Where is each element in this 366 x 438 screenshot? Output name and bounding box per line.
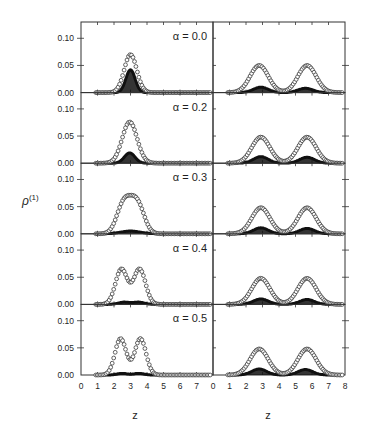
y-tick-label: 0.05 — [57, 202, 74, 212]
y-tick-label: 0.00 — [57, 88, 74, 98]
x-tick-label: 1 — [227, 381, 232, 391]
y-tick-label: 0.10 — [57, 174, 74, 184]
x-tick-label: 3 — [128, 381, 133, 391]
x-tick-label: 7 — [326, 381, 331, 391]
open-circle-series — [94, 267, 212, 306]
x-tick-label: 0 — [211, 381, 216, 391]
alpha-label: α = 0.4 — [173, 242, 207, 254]
open-circle-series — [226, 347, 344, 377]
y-tick-label: 0.10 — [57, 316, 74, 326]
y-tick-label: 0.10 — [57, 245, 74, 255]
y-tick-label: 0.05 — [57, 272, 74, 282]
panel-right-1 — [213, 93, 349, 166]
alpha-label: α = 0.0 — [173, 30, 207, 42]
figure: 0.000.050.10α = 0.00.000.050.10α = 0.20.… — [0, 0, 366, 438]
x-tick-label: 0 — [79, 381, 84, 391]
open-circle-series — [94, 193, 212, 235]
y-axis-label: ρ(1) — [21, 193, 39, 208]
y-tick-label: 0.00 — [57, 229, 74, 239]
y-tick-label: 0.05 — [57, 131, 74, 141]
x-axis-label-right: z — [265, 409, 271, 421]
alpha-label: α = 0.5 — [173, 312, 207, 324]
x-tick-label: 5 — [161, 381, 166, 391]
y-tick-label: 0.00 — [57, 299, 74, 309]
x-tick-label: 5 — [293, 381, 298, 391]
y-tick-label: 0.00 — [57, 370, 74, 380]
open-circle-series — [226, 206, 344, 236]
open-circle-series — [226, 135, 344, 165]
x-tick-label: 2 — [244, 381, 249, 391]
open-circle-series — [94, 53, 212, 95]
y-tick-label: 0.10 — [57, 33, 74, 43]
x-tick-label: 1 — [95, 381, 100, 391]
filled-series — [96, 70, 210, 93]
y-tick-label: 0.05 — [57, 60, 74, 70]
x-axis-label-left: z — [132, 409, 138, 421]
open-circle-series — [94, 337, 212, 377]
open-circle-series — [226, 276, 344, 306]
panel-right-0 — [213, 22, 349, 95]
chart-grid: 0.000.050.10α = 0.00.000.050.10α = 0.20.… — [0, 0, 366, 438]
y-tick-label: 0.00 — [57, 158, 74, 168]
open-circle-series — [94, 120, 212, 165]
open-circle-series — [226, 64, 344, 95]
x-tick-label: 3 — [260, 381, 265, 391]
x-tick-label: 8 — [343, 381, 348, 391]
x-tick-label: 2 — [112, 381, 117, 391]
x-tick-labels: 01234567012345678 — [79, 381, 348, 391]
y-tick-label: 0.10 — [57, 104, 74, 114]
alpha-label: α = 0.3 — [173, 171, 207, 183]
x-tick-label: 4 — [277, 381, 282, 391]
y-tick-label: 0.05 — [57, 343, 74, 353]
alpha-label: α = 0.2 — [173, 101, 207, 113]
x-tick-label: 6 — [310, 381, 315, 391]
x-tick-label: 6 — [178, 381, 183, 391]
panel-right-4 — [213, 304, 349, 377]
panel-right-3 — [213, 234, 349, 306]
panels: 0.000.050.10α = 0.00.000.050.10α = 0.20.… — [57, 22, 349, 380]
x-tick-label: 4 — [145, 381, 150, 391]
panel-right-2 — [213, 163, 349, 236]
x-tick-label: 7 — [194, 381, 199, 391]
